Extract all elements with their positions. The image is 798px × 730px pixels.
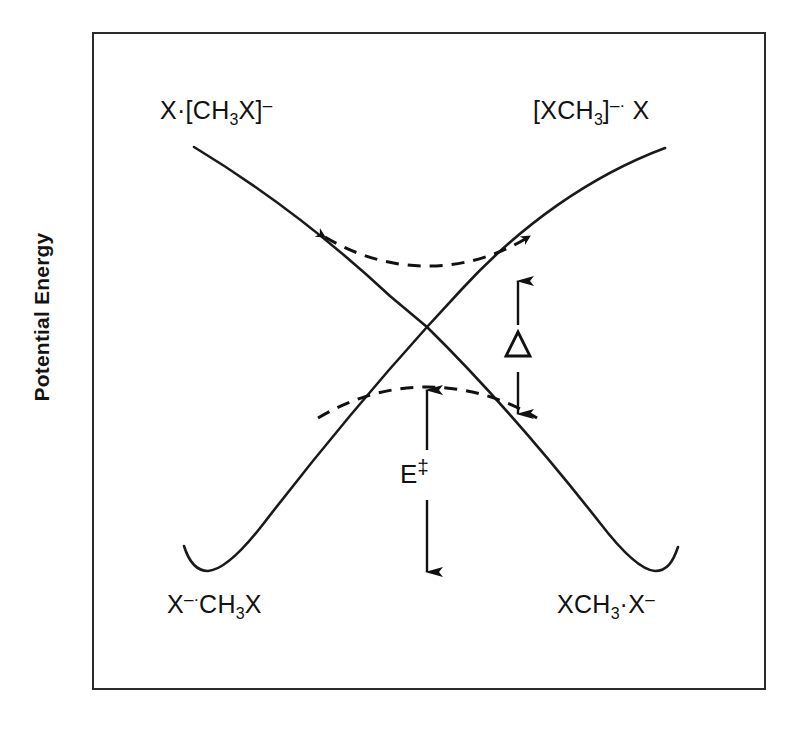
species-text-mid: ] bbox=[603, 96, 610, 124]
species-label-upper-left: X·[CH3X]– bbox=[160, 96, 272, 129]
charge-superscript: –· bbox=[184, 590, 199, 609]
y-axis-label: Potential Energy bbox=[30, 187, 54, 447]
species-text-mid: ·X bbox=[620, 590, 646, 618]
charge-superscript: – bbox=[263, 96, 272, 115]
activation-energy-label: E‡ bbox=[400, 455, 429, 490]
species-text: [XCH bbox=[533, 96, 594, 124]
species-text: X·[CH bbox=[160, 96, 230, 124]
species-text: X bbox=[167, 590, 184, 618]
species-text-mid: CH bbox=[199, 590, 236, 618]
species-text-post: X bbox=[625, 96, 649, 124]
subscript: 3 bbox=[236, 605, 245, 622]
species-text-mid: X] bbox=[238, 96, 262, 124]
subscript: 3 bbox=[611, 605, 620, 622]
charge-superscript: – bbox=[645, 590, 654, 609]
double-dagger-icon: ‡ bbox=[417, 455, 429, 478]
species-text: XCH bbox=[557, 590, 611, 618]
potential-energy-diagram: Potential Energy bbox=[0, 0, 798, 730]
species-label-lower-right: XCH3·X– bbox=[557, 590, 655, 623]
species-label-lower-left: X–·CH3X bbox=[167, 590, 262, 623]
activation-energy-symbol: E bbox=[400, 459, 417, 489]
charge-superscript: –· bbox=[610, 96, 625, 115]
species-text-post: X bbox=[245, 590, 262, 618]
species-label-upper-right: [XCH3]–· X bbox=[533, 96, 649, 129]
subscript: 3 bbox=[594, 111, 603, 128]
